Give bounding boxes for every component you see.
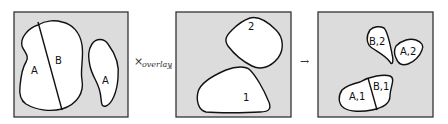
region-label: 2 bbox=[248, 21, 254, 32]
region-label: A,1 bbox=[349, 91, 365, 102]
region-label: B,2 bbox=[369, 36, 385, 47]
operator-name: overlay bbox=[142, 60, 172, 69]
region-label: A,2 bbox=[400, 46, 416, 57]
region-label: A bbox=[102, 75, 109, 86]
region-label: 1 bbox=[243, 92, 249, 103]
region-label: B bbox=[55, 55, 62, 66]
region-label: A bbox=[31, 65, 38, 76]
panel-input-right: 2 1 bbox=[176, 12, 291, 117]
arrow-icon: → bbox=[300, 55, 309, 68]
overlay-diagram: A B A × overlay 1 2 1 → B,2 A,2 B,1 A,1 bbox=[0, 0, 448, 124]
panel-result: B,2 A,2 B,1 A,1 bbox=[318, 12, 433, 117]
region-label: B,1 bbox=[373, 81, 389, 92]
region-ab bbox=[20, 21, 83, 111]
overlay-operator: × overlay 1 bbox=[134, 55, 173, 70]
panel-input-left: A B A bbox=[14, 12, 128, 117]
operator-subscript: 1 bbox=[169, 63, 173, 70]
